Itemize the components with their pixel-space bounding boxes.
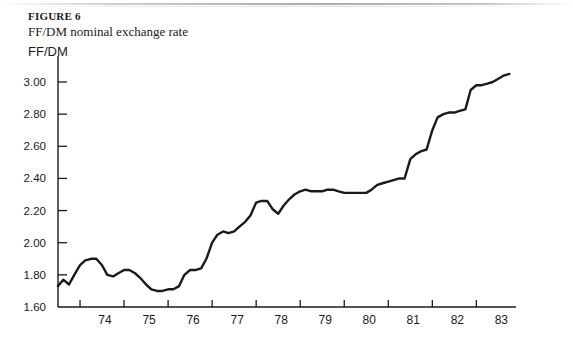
y-axis-tick-label: 2.80 <box>24 108 46 120</box>
y-axis-tick-label: 2.20 <box>24 205 46 217</box>
line-chart: 1.601.802.002.202.402.602.803.00 7475767… <box>0 0 573 343</box>
x-axis-tick-label: 77 <box>230 313 244 327</box>
figure-page: FIGURE 6 FF/DM nominal exchange rate FF/… <box>0 0 573 343</box>
y-axis-tick-label: 1.60 <box>24 301 46 313</box>
y-axis-tick-labels: 1.601.802.002.202.402.602.803.00 <box>24 76 46 313</box>
x-axis-tick-label: 76 <box>186 313 200 327</box>
x-axis-tick-marks <box>80 300 476 307</box>
y-axis-tick-marks <box>58 82 67 275</box>
x-axis-tick-label: 82 <box>451 313 465 327</box>
y-axis-group: 1.601.802.002.202.402.602.803.00 <box>24 56 67 313</box>
x-axis-tick-label: 83 <box>495 313 509 327</box>
x-axis-tick-label: 81 <box>407 313 421 327</box>
y-axis-tick-label: 2.00 <box>24 237 46 249</box>
x-axis-tick-label: 79 <box>319 313 333 327</box>
x-axis-tick-label: 78 <box>274 313 288 327</box>
y-axis-tick-label: 3.00 <box>24 76 46 88</box>
exchange-rate-series-line <box>58 74 509 291</box>
x-axis-tick-labels: 74757677787980818283 <box>98 313 508 327</box>
y-axis-tick-label: 2.40 <box>24 172 46 184</box>
y-axis-tick-label: 1.80 <box>24 269 46 281</box>
x-axis-tick-label: 75 <box>142 313 156 327</box>
y-axis-tick-label: 2.60 <box>24 140 46 152</box>
x-axis-tick-label: 80 <box>363 313 377 327</box>
x-axis-tick-label: 74 <box>98 313 112 327</box>
x-axis-group: 74757677787980818283 <box>58 300 516 327</box>
